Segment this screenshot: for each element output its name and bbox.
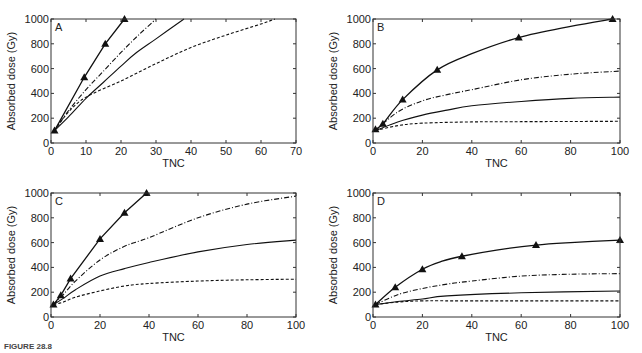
y-tick-label: 1000 — [25, 187, 49, 199]
y-tick-label: 200 — [353, 286, 371, 298]
figure-caption-label: FIGURE 28.8 — [4, 342, 52, 351]
series-group — [375, 19, 620, 131]
y-axis-title: Absorbed dose (Gy) — [327, 206, 339, 304]
series-group — [53, 193, 296, 305]
triangle-marker — [80, 73, 88, 80]
y-tick-label: 0 — [43, 137, 49, 149]
panel-b: 02040608010002004006008001000TNCAbsorbed… — [327, 13, 629, 169]
y-tick-label: 200 — [31, 112, 49, 124]
series-triangle-marker-solid — [53, 193, 146, 305]
series-dash-dot — [55, 19, 157, 131]
x-tick-label: 60 — [255, 145, 267, 157]
panel-c: 02040608010002004006008001000TNCAbsorbed… — [5, 187, 305, 343]
panel-letter: A — [55, 21, 63, 33]
x-tick-label: 100 — [611, 145, 629, 157]
four-panel-line-chart: 01020304050607002004006008001000TNCAbsor… — [0, 0, 642, 353]
series-group — [375, 240, 620, 304]
y-tick-label: 1000 — [25, 13, 49, 25]
series-dash-dot — [53, 196, 296, 305]
series-triangle-marker-solid — [375, 240, 620, 304]
panel-letter: D — [377, 195, 385, 207]
y-tick-label: 600 — [31, 237, 49, 249]
x-axis-title: TNC — [485, 331, 508, 343]
triangle-marker — [418, 265, 426, 272]
x-tick-label: 30 — [150, 145, 162, 157]
axes-box — [373, 193, 620, 317]
y-tick-label: 800 — [31, 212, 49, 224]
x-tick-label: 80 — [564, 319, 576, 331]
y-tick-label: 1000 — [347, 13, 371, 25]
x-tick-label: 60 — [192, 319, 204, 331]
figure: 01020304050607002004006008001000TNCAbsor… — [0, 0, 642, 353]
x-tick-label: 70 — [290, 145, 302, 157]
series-dashed — [53, 279, 296, 304]
series-group — [55, 19, 276, 131]
x-tick-label: 80 — [564, 145, 576, 157]
y-tick-label: 600 — [353, 63, 371, 75]
x-tick-label: 20 — [115, 145, 127, 157]
x-tick-label: 20 — [94, 319, 106, 331]
axes-box — [51, 19, 296, 143]
triangle-marker — [391, 283, 399, 290]
panel-d: 02040608010002004006008001000TNCAbsorbed… — [327, 187, 629, 343]
series-dashed — [55, 19, 276, 131]
x-tick-label: 50 — [220, 145, 232, 157]
x-axis-title: TNC — [485, 157, 508, 169]
series-dash-dot — [375, 71, 620, 131]
y-tick-label: 1000 — [347, 187, 371, 199]
y-tick-label: 0 — [365, 137, 371, 149]
y-tick-label: 400 — [353, 87, 371, 99]
x-tick-label: 10 — [80, 145, 92, 157]
y-tick-label: 600 — [31, 63, 49, 75]
series-solid — [53, 240, 296, 304]
panel-a: 01020304050607002004006008001000TNCAbsor… — [5, 13, 302, 169]
x-tick-label: 100 — [611, 319, 629, 331]
x-tick-label: 40 — [143, 319, 155, 331]
series-triangle-marker-solid — [55, 19, 125, 131]
y-axis-title: Absorbed dose (Gy) — [5, 32, 17, 130]
series-solid — [375, 291, 620, 305]
y-tick-label: 400 — [31, 261, 49, 273]
x-tick-label: 40 — [185, 145, 197, 157]
panel-letter: B — [377, 21, 384, 33]
y-tick-label: 400 — [353, 261, 371, 273]
y-tick-label: 600 — [353, 237, 371, 249]
series-solid — [375, 97, 620, 130]
y-tick-label: 400 — [31, 87, 49, 99]
panel-letter: C — [55, 195, 63, 207]
y-tick-label: 200 — [353, 112, 371, 124]
x-tick-label: 80 — [241, 319, 253, 331]
figure-caption: FIGURE 28.8 — [4, 342, 52, 351]
y-axis-title: Absorbed dose (Gy) — [5, 206, 17, 304]
x-tick-label: 20 — [416, 145, 428, 157]
series-dashed — [375, 121, 620, 130]
triangle-marker — [433, 66, 441, 73]
y-tick-label: 200 — [31, 286, 49, 298]
series-solid — [55, 19, 185, 131]
y-axis-title: Absorbed dose (Gy) — [327, 32, 339, 130]
x-tick-label: 100 — [287, 319, 305, 331]
x-tick-label: 40 — [466, 145, 478, 157]
x-axis-title: TNC — [162, 157, 185, 169]
x-tick-label: 60 — [515, 319, 527, 331]
x-tick-label: 40 — [466, 319, 478, 331]
y-tick-label: 800 — [353, 38, 371, 50]
x-tick-label: 20 — [416, 319, 428, 331]
y-tick-label: 800 — [31, 38, 49, 50]
series-dashed — [375, 301, 620, 305]
x-tick-label: 60 — [515, 145, 527, 157]
y-tick-label: 800 — [353, 212, 371, 224]
y-tick-label: 0 — [43, 311, 49, 323]
y-tick-label: 0 — [365, 311, 371, 323]
x-axis-title: TNC — [162, 331, 185, 343]
